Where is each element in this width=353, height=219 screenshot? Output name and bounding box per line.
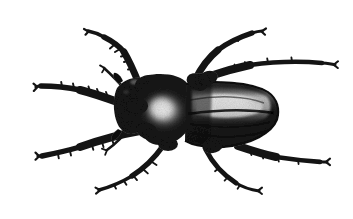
beetle-photograph (0, 0, 353, 219)
image-canvas (0, 0, 353, 219)
